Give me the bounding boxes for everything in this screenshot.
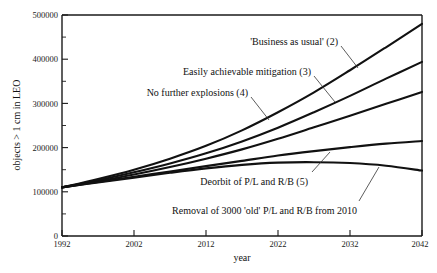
- x-tick-label: 2042: [412, 239, 429, 249]
- y-tick-label: 300000: [33, 99, 59, 109]
- annotation-removal-3000-old: Removal of 3000 'old' P/L and R/B from 2…: [172, 205, 357, 216]
- x-tick-label: 2032: [342, 239, 359, 249]
- y-tick-label: 100000: [33, 187, 59, 197]
- x-tick-label: 1992: [54, 239, 71, 249]
- x-tick-label: 2022: [270, 239, 287, 249]
- annotation-deorbit-pl-rb: Deorbit of P/L and R/B (5): [200, 176, 308, 188]
- annotation-business-as-usual: 'Business as usual' (2): [250, 36, 338, 48]
- y-tick-label: 500000: [33, 10, 59, 20]
- chart-background: [0, 0, 437, 273]
- y-tick-label: 400000: [33, 54, 59, 64]
- y-axis-title: objects > 1 cm in LEO: [11, 80, 22, 171]
- x-axis-title: year: [233, 252, 251, 263]
- annotation-easily-achievable-mitigation: Easily achievable mitigation (3): [183, 66, 311, 78]
- y-tick-label: 200000: [33, 143, 59, 153]
- annotation-no-further-explosions: No further explosions (4): [147, 87, 248, 99]
- x-tick-label: 2002: [126, 239, 143, 249]
- line-chart: 0 100000 200000 300000 400000 500000 obj…: [0, 0, 437, 273]
- x-tick-label: 2012: [198, 239, 215, 249]
- chart-figure: 0 100000 200000 300000 400000 500000 obj…: [0, 0, 437, 273]
